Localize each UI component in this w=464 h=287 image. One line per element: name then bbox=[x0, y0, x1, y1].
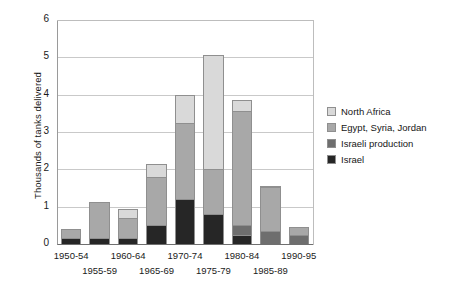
legend-item[interactable]: Israeli production bbox=[327, 136, 457, 151]
x-axis-labels: 1950-541955-591960-641965-691970-741975-… bbox=[57, 247, 313, 283]
bar-segment[interactable] bbox=[260, 231, 280, 244]
bar-segment[interactable] bbox=[175, 199, 195, 244]
x-axis-tick-label: 1970-74 bbox=[168, 250, 203, 261]
bar-segment[interactable] bbox=[89, 202, 109, 238]
bars-layer bbox=[57, 20, 313, 244]
bar-segment[interactable] bbox=[260, 187, 280, 231]
y-axis-tick-label: 4 bbox=[19, 88, 49, 99]
bar-segment[interactable] bbox=[89, 238, 109, 244]
legend-item-label: Israeli production bbox=[341, 138, 413, 149]
bar-group[interactable] bbox=[118, 20, 138, 244]
bar-group[interactable] bbox=[232, 20, 252, 244]
bar-segment[interactable] bbox=[146, 177, 166, 226]
bar-group[interactable] bbox=[260, 20, 280, 244]
legend-item[interactable]: Egypt, Syria, Jordan bbox=[327, 120, 457, 135]
legend-swatch-icon bbox=[327, 139, 336, 148]
bar-segment[interactable] bbox=[260, 186, 280, 187]
bar-segment[interactable] bbox=[175, 123, 195, 200]
bar-segment[interactable] bbox=[203, 214, 223, 244]
legend-item[interactable]: Israel bbox=[327, 152, 457, 167]
y-axis-tick-label: 1 bbox=[19, 200, 49, 211]
legend-swatch-icon bbox=[327, 107, 336, 116]
legend-item-label: Egypt, Syria, Jordan bbox=[341, 122, 427, 133]
y-axis-tick-label: 6 bbox=[19, 13, 49, 24]
plot-frame-right bbox=[313, 20, 314, 245]
bar-segment[interactable] bbox=[118, 209, 138, 218]
bar-segment[interactable] bbox=[203, 169, 223, 214]
bar-segment[interactable] bbox=[175, 95, 195, 123]
gridline bbox=[58, 244, 314, 245]
bar-segment[interactable] bbox=[232, 225, 252, 234]
legend-item-label: Israel bbox=[341, 154, 364, 165]
x-axis-tick-label: 1975-79 bbox=[196, 265, 231, 276]
chart-legend: North AfricaEgypt, Syria, JordanIsraeli … bbox=[327, 104, 457, 168]
bar-segment[interactable] bbox=[232, 100, 252, 111]
y-axis-tick-label: 3 bbox=[19, 125, 49, 136]
x-axis-tick-label: 1980-84 bbox=[224, 250, 259, 261]
legend-swatch-icon bbox=[327, 155, 336, 164]
bar-segment[interactable] bbox=[118, 238, 138, 244]
bar-segment[interactable] bbox=[232, 235, 252, 244]
y-axis-tick-label: 2 bbox=[19, 162, 49, 173]
y-axis-tick-label: 5 bbox=[19, 50, 49, 61]
bar-segment[interactable] bbox=[61, 238, 81, 244]
bar-segment[interactable] bbox=[146, 164, 166, 177]
legend-swatch-icon bbox=[327, 123, 336, 132]
bar-segment[interactable] bbox=[118, 218, 138, 239]
bar-group[interactable] bbox=[89, 20, 109, 244]
bar-group[interactable] bbox=[175, 20, 195, 244]
bar-segment[interactable] bbox=[61, 229, 81, 238]
bar-segment[interactable] bbox=[289, 235, 309, 244]
bar-segment[interactable] bbox=[203, 55, 223, 169]
bar-segment[interactable] bbox=[146, 225, 166, 244]
bar-segment[interactable] bbox=[232, 111, 252, 225]
bar-segment[interactable] bbox=[289, 227, 309, 234]
x-axis-tick-label: 1985-89 bbox=[253, 265, 288, 276]
y-axis-tick-label: 0 bbox=[19, 237, 49, 248]
x-axis-tick-label: 1955-59 bbox=[82, 265, 117, 276]
x-axis-tick-label: 1960-64 bbox=[111, 250, 146, 261]
x-axis-tick-label: 1950-54 bbox=[54, 250, 89, 261]
bar-chart: Thousands of tanks delivered 0123456 195… bbox=[0, 0, 464, 287]
bar-group[interactable] bbox=[146, 20, 166, 244]
legend-item-label: North Africa bbox=[341, 106, 391, 117]
x-axis-tick-label: 1965-69 bbox=[139, 265, 174, 276]
bar-group[interactable] bbox=[203, 20, 223, 244]
legend-item[interactable]: North Africa bbox=[327, 104, 457, 119]
bar-group[interactable] bbox=[61, 20, 81, 244]
bar-group[interactable] bbox=[289, 20, 309, 244]
y-axis-ticks: 0123456 bbox=[17, 20, 49, 244]
x-axis-tick-label: 1990-95 bbox=[281, 250, 316, 261]
